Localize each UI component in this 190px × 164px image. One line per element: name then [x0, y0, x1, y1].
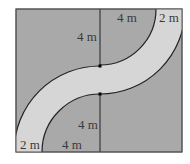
label-bottom-path-width: 2 m [20, 137, 40, 152]
label-upper-vertical: 4 m [77, 29, 97, 44]
label-lower-vertical: 4 m [78, 117, 98, 132]
bottom-dot [99, 93, 102, 96]
label-bottom-inner-radius: 4 m [62, 137, 82, 152]
top-dot [99, 65, 102, 68]
label-top-inner-radius: 4 m [117, 10, 137, 25]
label-top-path-width: 2 m [159, 10, 179, 25]
s-path-diagram: 4 m 2 m 4 m 4 m 2 m 4 m [0, 0, 190, 164]
